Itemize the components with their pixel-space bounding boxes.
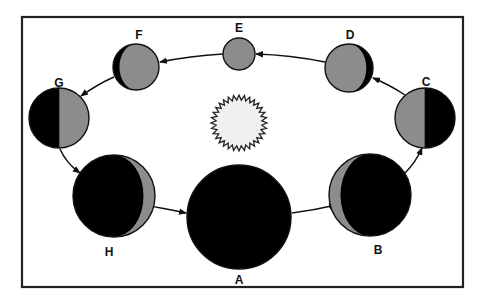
third-quarter-icon	[29, 88, 89, 148]
moon-phase-c: C	[395, 75, 455, 148]
arrow-e-to-f	[160, 54, 223, 62]
phase-label-h: H	[105, 245, 114, 259]
new-moon-icon	[187, 165, 291, 269]
moon-phase-f: F	[113, 28, 159, 90]
waxing-gibbous-icon	[325, 44, 373, 92]
arrow-c-to-d	[373, 78, 405, 95]
waxing-crescent-icon	[329, 154, 411, 236]
full-moon-icon	[223, 38, 255, 70]
moon-phase-h: H	[73, 155, 155, 259]
arrow-b-to-c	[405, 148, 422, 173]
waning-gibbous-icon	[113, 44, 159, 90]
phase-label-g: G	[54, 76, 63, 90]
arrow-a-to-b	[292, 205, 336, 213]
phase-label-b: B	[374, 243, 383, 257]
arrow-d-to-e	[256, 54, 325, 62]
moon-phase-g: G	[29, 76, 89, 148]
sun-icon	[211, 95, 267, 151]
phase-label-a: A	[235, 273, 244, 287]
sun-shape	[211, 95, 267, 151]
arrow-f-to-g	[81, 77, 114, 96]
moon-phase-d: D	[325, 28, 373, 92]
moon-phases: ABCDEFGH	[29, 21, 455, 287]
phase-label-d: D	[346, 28, 355, 42]
moon-phase-e: E	[223, 21, 255, 70]
phase-label-f: F	[135, 28, 142, 42]
moon-phase-a: A	[187, 165, 291, 287]
arrow-g-to-h	[60, 149, 80, 173]
phase-label-c: C	[422, 75, 431, 89]
moon-phases-diagram: ABCDEFGH	[0, 0, 487, 304]
phase-label-e: E	[235, 21, 243, 35]
moon-phase-b: B	[329, 154, 411, 257]
waning-crescent-icon	[73, 155, 155, 237]
first-quarter-icon	[395, 88, 455, 148]
